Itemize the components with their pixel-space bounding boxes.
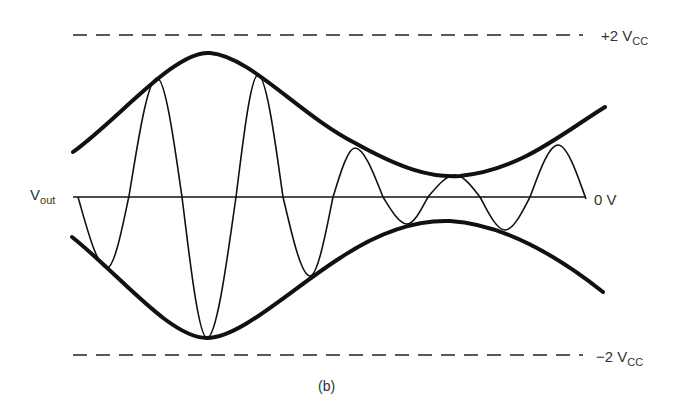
upper-envelope-curve [73,53,605,176]
bottom-rail-label: −2 VCC [596,349,643,364]
figure-caption: (b) [318,379,335,393]
output-waveform [78,75,586,338]
top-rail-label: +2 VCC [601,28,648,43]
waveform-diagram [0,0,676,406]
vout-label: Vout [30,187,55,202]
zero-volt-label: 0 V [594,192,617,207]
lower-envelope-curve [72,221,603,338]
